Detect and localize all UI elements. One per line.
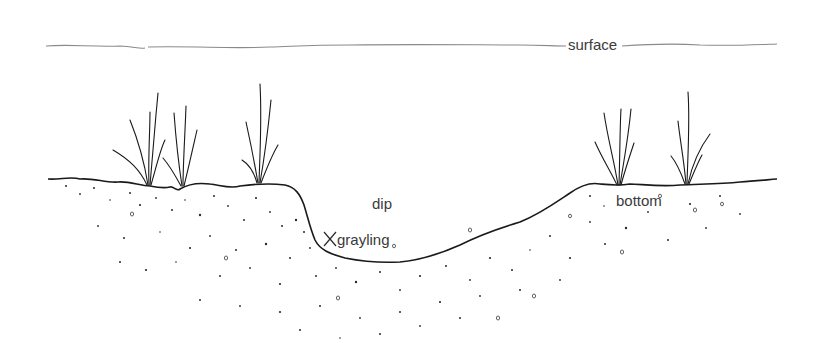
- grayling-label: grayling: [337, 232, 390, 247]
- grayling-x-marker-icon: [324, 232, 336, 246]
- weed-clump-left-1: [113, 93, 165, 185]
- weed-clump-left-3: [242, 84, 278, 183]
- dip-label: dip: [372, 196, 392, 211]
- weed-clump-left-2: [163, 106, 197, 186]
- diagram-drawing: [0, 0, 823, 356]
- stream-bed-diagram: surface dip grayling bottom: [0, 0, 823, 356]
- water-surface-line: [46, 44, 777, 48]
- weed-clump-right-1: [595, 109, 634, 185]
- surface-label: surface: [566, 37, 619, 52]
- stream-bed-outline: [48, 178, 777, 262]
- bottom-label: bottom: [616, 193, 662, 208]
- weed-clump-right-2: [671, 92, 710, 184]
